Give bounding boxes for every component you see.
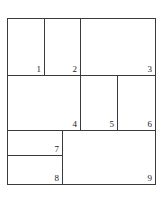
partition-cell-9[interactable]: 9 (62, 130, 156, 185)
cell-label-4: 4 (73, 119, 78, 130)
cell-label-7: 7 (55, 144, 60, 155)
cell-label-5: 5 (110, 119, 115, 130)
cell-label-2: 2 (73, 64, 78, 75)
partition-cell-6[interactable]: 6 (117, 75, 156, 131)
partition-cell-8[interactable]: 8 (7, 155, 63, 185)
partition-cell-5[interactable]: 5 (80, 75, 118, 131)
partition-diagram: 1 2 3 4 5 6 7 8 9 (0, 0, 163, 198)
cell-label-1: 1 (37, 64, 42, 75)
partition-cell-4[interactable]: 4 (7, 75, 81, 131)
partition-cell-2[interactable]: 2 (44, 18, 81, 76)
cell-label-9: 9 (148, 173, 153, 184)
partition-cell-3[interactable]: 3 (80, 18, 156, 76)
cell-label-3: 3 (148, 64, 153, 75)
partition-cell-1[interactable]: 1 (7, 18, 45, 76)
partition-cell-7[interactable]: 7 (7, 130, 63, 156)
cell-label-8: 8 (55, 173, 60, 184)
cell-label-6: 6 (148, 119, 153, 130)
